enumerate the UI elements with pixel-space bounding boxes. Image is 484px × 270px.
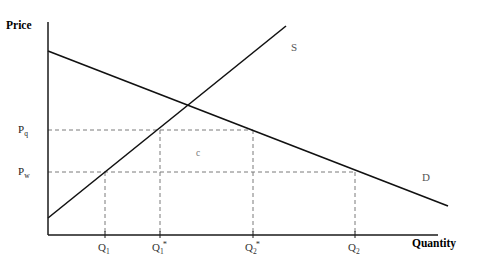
figure-canvas (0, 0, 484, 270)
x-axis-title: Quantity (412, 238, 456, 250)
quantity-tick-sub-q1: 1 (106, 247, 110, 256)
quantity-tick-sub-q2: 2 (356, 247, 360, 256)
quantity-tick-label-q2-star: Q2* (245, 242, 261, 253)
quantity-tick-base-q2-star: Q (245, 241, 253, 253)
price-tick-sub-pw: w (24, 171, 29, 180)
area-label-c: c (196, 149, 200, 159)
supply-demand-figure: Price Quantity Pq Pw Q1 Q1* Q2* Q2 S D c (0, 0, 484, 270)
demand-curve-label: D (422, 172, 430, 183)
quantity-tick-label-q1: Q1 (98, 242, 110, 253)
price-tick-label-pq: Pq (18, 124, 28, 135)
quantity-tick-label-q1-star: Q1* (152, 242, 168, 253)
price-tick-label-pw: Pw (18, 166, 30, 177)
supply-curve (48, 26, 286, 218)
supply-curve-label: S (291, 42, 297, 53)
quantity-tick-sup-q1-star: * (163, 239, 167, 249)
quantity-tick-base-q1-star: Q (152, 241, 160, 253)
quantity-tick-base-q2: Q (348, 241, 356, 253)
quantity-tick-sup-q2-star: * (256, 239, 260, 249)
quantity-tick-base-q1: Q (98, 241, 106, 253)
price-tick-sub-pq: q (24, 129, 28, 138)
demand-curve (48, 51, 448, 206)
y-axis-title: Price (6, 20, 32, 32)
quantity-tick-label-q2: Q2 (348, 242, 360, 253)
